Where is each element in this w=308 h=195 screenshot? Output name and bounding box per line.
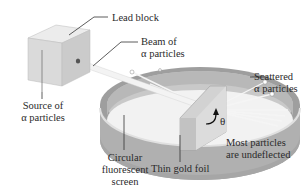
- beam-label-line1: Beam of: [141, 36, 177, 47]
- gold-foil-label: Thin gold foil: [151, 163, 209, 174]
- rutherford-diagram: Lead block Beam of α particles Source of…: [0, 0, 308, 195]
- source-label-line1: Source of: [18, 100, 68, 111]
- scattered-label-line1: Scattered: [254, 71, 293, 82]
- lead-block-label: Lead block: [112, 12, 159, 23]
- undeflected-label-line2: are undeflected: [226, 149, 290, 160]
- circular-screen-label-line3: screen: [98, 176, 152, 187]
- circular-screen-label-line2: fluorescent: [94, 164, 156, 175]
- circular-screen-label-line1: Circular: [98, 152, 152, 163]
- lead-block: [28, 25, 90, 92]
- scattered-label-line2: α particles: [254, 83, 298, 94]
- undeflected-label-line1: Most particles: [226, 137, 286, 148]
- source-label-line2: α particles: [14, 112, 72, 123]
- beam-label-line2: α particles: [141, 48, 185, 59]
- angle-theta-label: θ: [220, 116, 225, 127]
